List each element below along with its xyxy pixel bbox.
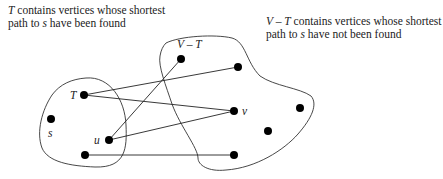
label-u: u xyxy=(94,134,100,146)
label-T: T xyxy=(70,89,78,101)
vertex-v xyxy=(230,107,238,115)
vertex-s xyxy=(47,115,55,123)
label-v: v xyxy=(242,105,248,117)
vertices xyxy=(47,55,304,159)
edge-u-v xyxy=(109,111,234,140)
vertex-u xyxy=(105,136,113,144)
vertex-w1 xyxy=(177,55,185,63)
vertex-w2 xyxy=(234,63,242,71)
vertex-t4 xyxy=(81,151,89,159)
label-vt: V – T xyxy=(177,38,203,50)
graph-diagram: T s u v V – T xyxy=(0,0,443,179)
vertex-T xyxy=(80,91,88,99)
vertex-w3 xyxy=(296,104,304,112)
vertex-w5 xyxy=(230,151,238,159)
vertex-w4 xyxy=(264,127,272,135)
edge-T-v xyxy=(84,95,234,111)
label-s: s xyxy=(48,127,53,139)
